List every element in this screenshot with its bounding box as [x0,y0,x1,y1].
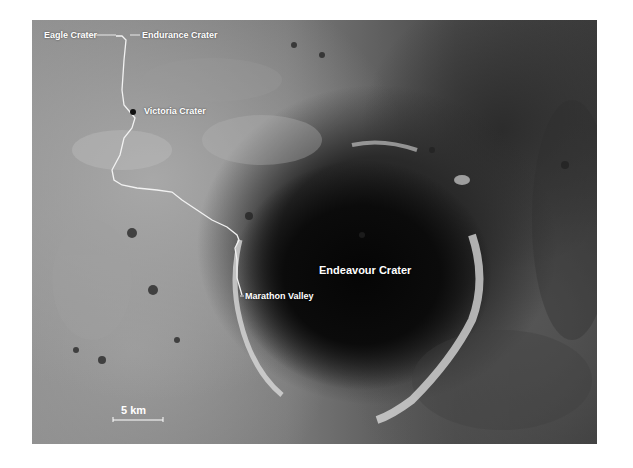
label-endeavour-crater: Endeavour Crater [319,264,411,276]
scale-bar-label: 5 km [121,404,146,416]
mars-satellite-map: Eagle Crater Endurance Crater Victoria C… [32,20,597,444]
label-eagle-crater: Eagle Crater [44,30,97,40]
victoria-crater-mark [130,109,136,115]
label-victoria-crater: Victoria Crater [144,106,206,116]
label-endurance-crater: Endurance Crater [142,30,218,40]
small-craters [73,42,569,364]
map-overlay [32,20,597,444]
label-marathon-valley: Marathon Valley [245,291,314,301]
scale-bar [113,417,163,422]
